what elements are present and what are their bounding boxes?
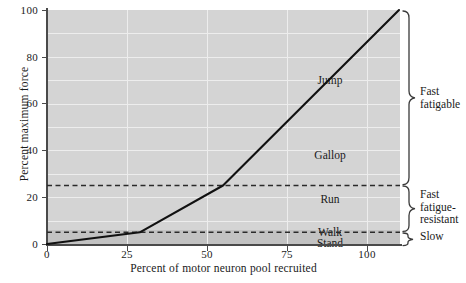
y-tick-mark (42, 197, 47, 198)
fast-fatigable-line2: fatigable (420, 98, 460, 111)
y-axis-title: Percent maximum force (18, 49, 30, 199)
annotation-run: Run (300, 193, 360, 205)
gridline-vertical (207, 10, 208, 244)
x-axis-title: Percent of motor neuron pool recruited (47, 262, 400, 274)
y-tick-mark (42, 57, 47, 58)
x-tick-label-50: 50 (187, 249, 227, 260)
y-axis-line (46, 8, 48, 246)
annotation-stand: Stand (300, 237, 360, 249)
fast-fatigue-resistant-line1: Fast (420, 188, 458, 201)
brace-label-fast-fatigable: Fast fatigable (420, 85, 460, 110)
x-tick-label-100: 100 (347, 249, 387, 260)
brace-label-slow: Slow (420, 230, 444, 243)
annotation-jump: Jump (300, 74, 360, 86)
brace-fast-fatigable (403, 11, 415, 185)
y-tick-mark (42, 103, 47, 104)
y-tick-mark (42, 244, 47, 245)
gridline-horizontal (47, 104, 400, 105)
y-tick-mark (42, 10, 47, 11)
annotation-gallop: Gallop (300, 149, 360, 161)
gridline-horizontal (47, 57, 400, 58)
fast-fatigable-line1: Fast (420, 85, 460, 98)
x-tick-label-75: 75 (267, 249, 307, 260)
y-tick-mark (42, 150, 47, 151)
brace-slow (403, 233, 413, 246)
gridline-vertical (127, 10, 128, 244)
x-tick-label-25: 25 (107, 249, 147, 260)
brace-label-fast-fatigue-resistant: Fast fatigue- resistant (420, 188, 458, 226)
plot-area: Jump Gallop Run Walk Stand (47, 10, 400, 244)
fast-fatigue-resistant-line2: fatigue- (420, 201, 458, 214)
x-axis-line (46, 244, 402, 246)
force-recruitment-chart: Jump Gallop Run Walk Stand 100 80 60 40 … (0, 0, 466, 283)
fast-fatigue-resistant-line3: resistant (420, 213, 458, 226)
gridline-horizontal (47, 127, 400, 128)
gridline-vertical (287, 10, 288, 244)
brace-fast-fatigue-resistant (403, 186, 415, 231)
y-tick-label-100: 100 (4, 5, 38, 16)
gridline-vertical (367, 10, 368, 244)
gridline-horizontal (47, 174, 400, 175)
x-tick-label-0: 0 (27, 249, 67, 260)
gridline-horizontal (47, 221, 400, 222)
gridline-horizontal (47, 33, 400, 34)
